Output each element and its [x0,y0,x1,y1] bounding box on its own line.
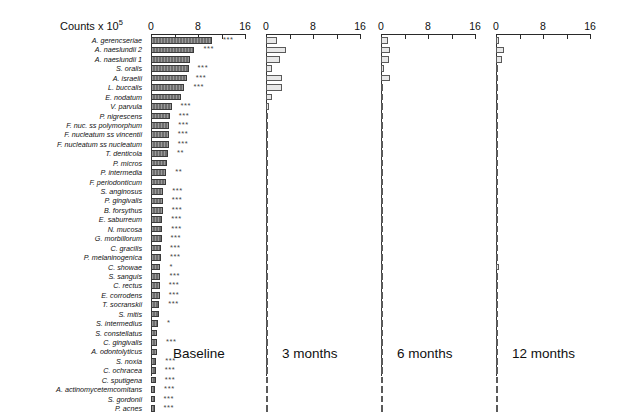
bar[interactable] [266,113,268,120]
bar[interactable] [266,245,268,252]
bar[interactable] [496,160,498,167]
bar[interactable] [381,330,383,337]
bar[interactable] [266,131,268,138]
bar[interactable] [266,377,268,384]
bar[interactable] [496,179,498,186]
bar[interactable] [496,245,498,252]
bar[interactable] [151,198,163,205]
bar[interactable] [266,198,268,205]
bar[interactable] [496,56,502,63]
bar[interactable] [381,75,390,82]
bar[interactable] [151,188,163,195]
bar[interactable] [151,273,160,280]
bar[interactable] [151,254,161,261]
bar[interactable] [381,358,383,365]
bar[interactable] [151,320,158,327]
bar[interactable] [266,75,282,82]
bar[interactable] [151,75,187,82]
bar[interactable] [496,75,498,82]
bar[interactable] [381,47,390,54]
bar[interactable] [266,84,282,91]
bar[interactable] [151,330,157,337]
bar[interactable] [151,179,166,186]
bar[interactable] [151,386,155,393]
bar[interactable] [496,84,498,91]
bar[interactable] [266,207,268,214]
bar[interactable] [266,47,286,54]
bar[interactable] [151,235,162,242]
bar[interactable] [151,56,190,63]
bar[interactable] [381,396,383,403]
bar[interactable] [381,235,383,242]
bar[interactable] [496,349,498,356]
bar[interactable] [496,386,498,393]
bar[interactable] [266,311,268,318]
bar[interactable] [151,396,155,403]
bar[interactable] [381,94,383,101]
bar[interactable] [151,405,155,412]
bar[interactable] [381,198,383,205]
bar[interactable] [381,65,384,72]
bar[interactable] [151,367,156,374]
bar[interactable] [381,160,383,167]
bar[interactable] [266,273,268,280]
bar[interactable] [496,188,498,195]
bar[interactable] [151,65,189,72]
bar[interactable] [381,311,383,318]
bar[interactable] [496,273,498,280]
bar[interactable] [266,188,268,195]
bar[interactable] [151,311,159,318]
bar[interactable] [496,198,498,205]
bar[interactable] [266,254,268,261]
bar[interactable] [266,301,268,308]
bar[interactable] [381,292,383,299]
bar[interactable] [496,103,498,110]
bar[interactable] [381,216,383,223]
bar[interactable] [381,377,383,384]
bar[interactable] [496,47,504,54]
bar[interactable] [381,226,383,233]
bar[interactable] [496,113,498,120]
bar[interactable] [496,330,498,337]
bar[interactable] [381,386,383,393]
bar[interactable] [266,150,268,157]
bar[interactable] [266,292,268,299]
bar[interactable] [381,113,383,120]
bar[interactable] [266,235,268,242]
bar[interactable] [151,377,156,384]
bar[interactable] [381,254,383,261]
bar[interactable] [266,264,268,271]
bar[interactable] [266,141,268,148]
bar[interactable] [266,405,268,412]
bar[interactable] [151,216,162,223]
bar[interactable] [496,141,498,148]
bar[interactable] [266,122,268,129]
bar[interactable] [151,292,160,299]
bar[interactable] [496,396,498,403]
bar[interactable] [151,226,162,233]
bar[interactable] [496,65,498,72]
bar[interactable] [151,160,167,167]
bar[interactable] [381,131,383,138]
bar[interactable] [496,37,499,44]
bar[interactable] [496,169,498,176]
bar[interactable] [381,122,383,129]
bar[interactable] [496,254,498,261]
bar[interactable] [266,103,269,110]
bar[interactable] [151,103,172,110]
bar[interactable] [381,84,383,91]
bar[interactable] [266,282,268,289]
bar[interactable] [151,358,156,365]
bar[interactable] [151,245,161,252]
bar[interactable] [381,320,383,327]
bar[interactable] [266,358,268,365]
bar[interactable] [151,84,184,91]
bar[interactable] [496,311,498,318]
bar[interactable] [151,169,166,176]
bar[interactable] [496,216,498,223]
bar[interactable] [496,264,499,271]
bar[interactable] [496,94,498,101]
bar[interactable] [381,405,383,412]
bar[interactable] [381,264,383,271]
bar[interactable] [266,226,268,233]
